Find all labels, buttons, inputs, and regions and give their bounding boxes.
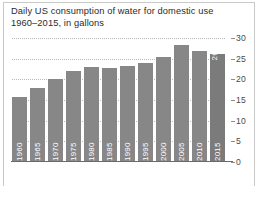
x-tick-label: 1990 — [120, 118, 135, 161]
y-tick-label-30: 30 — [236, 34, 246, 43]
y-tick-mark — [231, 121, 235, 122]
x-tick-label: 2005 — [174, 118, 189, 161]
x-tick-label: 1995 — [138, 118, 153, 161]
x-axis-line — [11, 161, 233, 162]
chart-figure: Daily US consumption of water for domest… — [0, 0, 258, 197]
y-tick-mark — [231, 141, 235, 142]
x-tick-label: 1970 — [48, 118, 63, 161]
y-tick-label-20: 20 — [236, 75, 246, 84]
y-tick-mark — [231, 100, 235, 101]
y-axis-tick-labels: 051015202530 — [236, 30, 258, 170]
y-tick-label-25: 25 — [236, 55, 246, 64]
y-tick-label-5: 5 — [236, 137, 241, 146]
y-tick-label-0: 0 — [236, 158, 241, 167]
chart-title: Daily US consumption of water for domest… — [11, 6, 226, 29]
bar-value-label: 26.1 — [210, 44, 225, 60]
y-tick-mark — [231, 162, 235, 163]
y-tick-mark — [231, 59, 235, 60]
y-tick-mark — [231, 38, 235, 39]
x-tick-label: 1980 — [84, 118, 99, 161]
x-tick-label: 2000 — [156, 118, 171, 161]
y-tick-mark — [231, 79, 235, 80]
x-tick-label: 1985 — [102, 118, 117, 161]
x-tick-label: 2015 — [210, 118, 225, 161]
y-tick-label-10: 10 — [236, 117, 246, 126]
x-tick-label: 1965 — [30, 118, 45, 161]
x-axis-tick-labels: 1960196519701975198019851990199520002005… — [12, 118, 225, 161]
x-tick-label: 1975 — [66, 118, 81, 161]
y-tick-label-15: 15 — [236, 96, 246, 105]
x-tick-label: 2010 — [192, 118, 207, 161]
chart-subtitle-line-2: 1960–2015, in gallons — [11, 18, 226, 30]
chart-title-line-1: Daily US consumption of water for domest… — [11, 6, 226, 18]
x-tick-label: 1960 — [12, 118, 27, 161]
